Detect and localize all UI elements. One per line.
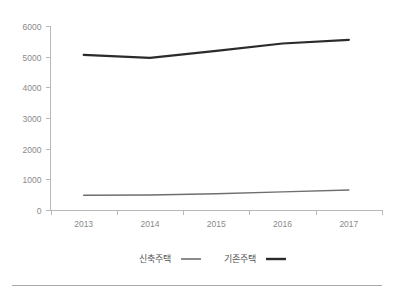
legend-label-1: 신축주택 (139, 254, 171, 264)
series-lines (84, 40, 349, 195)
x-tick-label: 2017 (339, 219, 358, 229)
y-tick-label: 5000 (23, 53, 42, 63)
y-tick-label: 3000 (23, 114, 42, 124)
x-tick-label: 2013 (74, 219, 93, 229)
x-axis-tick-labels: 20132014201520162017 (74, 219, 358, 229)
series-line-2 (84, 40, 349, 58)
y-axis: 0100020003000400050006000 (23, 22, 51, 216)
y-tick-label: 4000 (23, 83, 42, 93)
y-tick-label: 6000 (23, 22, 42, 32)
x-tick-label: 2014 (140, 219, 159, 229)
x-tick-label: 2016 (273, 219, 292, 229)
y-axis-tick-marks (46, 27, 51, 211)
y-tick-label: 0 (37, 206, 42, 216)
chart-legend: 신축주택기존주택 (139, 254, 286, 264)
chart-canvas: 0100020003000400050006000 20132014201520… (0, 0, 395, 296)
series-line-1 (84, 190, 349, 195)
line-chart-figure: 0100020003000400050006000 20132014201520… (0, 0, 395, 296)
x-axis: 20132014201520162017 (51, 210, 383, 229)
y-axis-tick-labels: 0100020003000400050006000 (23, 22, 42, 216)
legend-label-2: 기존주택 (224, 254, 256, 264)
x-tick-label: 2015 (207, 219, 226, 229)
y-tick-label: 2000 (23, 145, 42, 155)
y-tick-label: 1000 (23, 175, 42, 185)
